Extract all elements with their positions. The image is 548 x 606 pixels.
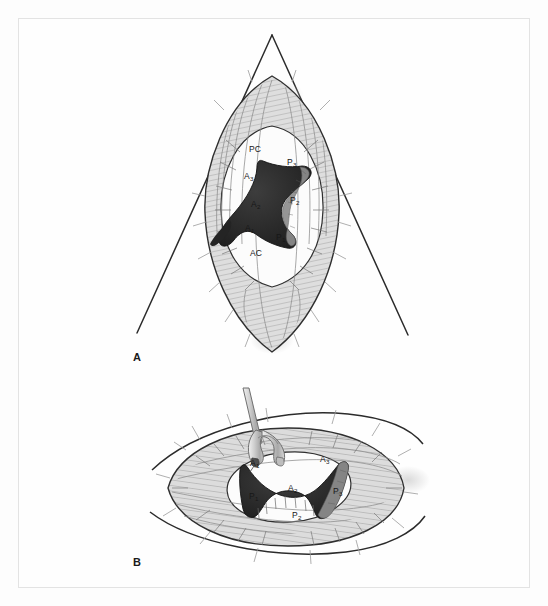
label-text: P: [249, 491, 255, 501]
panel-a-illustration: [137, 35, 408, 354]
label-text: PC: [249, 144, 261, 154]
label-subscript: 1: [255, 495, 258, 502]
label-panel-b-a1: A1: [250, 459, 259, 468]
label-text: A: [251, 199, 257, 209]
label-text: A: [320, 454, 326, 464]
label-subscript: 1: [251, 227, 254, 234]
label-text: A: [245, 223, 251, 233]
label-text: P: [276, 232, 282, 242]
label-panel-a-a3: A3: [244, 172, 253, 181]
label-subscript: 3: [326, 458, 329, 465]
label-panel-a-a1: A1: [245, 224, 254, 233]
label-subscript: 3: [293, 161, 296, 168]
panel-b-letter: B: [133, 556, 141, 568]
label-subscript: 3: [339, 490, 342, 497]
panel-a-letter: A: [133, 351, 141, 363]
label-panel-b-p2: P2: [292, 511, 301, 520]
label-text: P: [287, 157, 293, 167]
label-text: A: [288, 483, 294, 493]
label-subscript: 1: [256, 462, 259, 469]
label-panel-b-p3: P3: [333, 487, 342, 496]
label-text: AC: [250, 248, 262, 258]
panel-b-illustration: [150, 388, 430, 564]
label-panel-a-ac: AC: [250, 249, 262, 258]
label-panel-b-a3: A3: [320, 455, 329, 464]
label-panel-a-pc: PC: [249, 145, 261, 154]
figure-page: A B PC P3 A3 A2 P2 A1 P1 AC A1 A3 A2 P3 …: [0, 0, 548, 606]
label-subscript: 3: [250, 175, 253, 182]
figure-illustration: [0, 0, 548, 606]
label-subscript: 2: [296, 199, 299, 206]
label-subscript: 1: [282, 236, 285, 243]
label-subscript: 2: [298, 514, 301, 521]
label-text: A: [250, 458, 256, 468]
label-panel-b-p1: P1: [249, 492, 258, 501]
label-panel-b-a2: A2: [288, 484, 297, 493]
label-panel-a-p3: P3: [287, 158, 296, 167]
label-text: P: [290, 195, 296, 205]
label-text: A: [244, 171, 250, 181]
label-panel-a-p1: P1: [276, 233, 285, 242]
label-text: P: [333, 486, 339, 496]
label-subscript: 2: [294, 487, 297, 494]
label-subscript: 2: [257, 203, 260, 210]
label-panel-a-a2: A2: [251, 200, 260, 209]
label-text: P: [292, 510, 298, 520]
label-panel-a-p2: P2: [290, 196, 299, 205]
